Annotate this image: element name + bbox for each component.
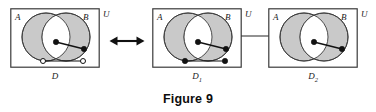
upper-edge-node-right <box>223 46 228 51</box>
upper-edge-node-right <box>339 46 344 51</box>
diagram-label-d2: D2 <box>268 72 358 83</box>
figure-9-root: A B U D A B <box>0 0 376 112</box>
lower-edge-node-right <box>222 58 227 63</box>
set-b-label: B <box>341 13 347 22</box>
upper-edge-node-left <box>195 39 200 44</box>
set-b-label: B <box>225 13 231 22</box>
diagram-label-d-text: D <box>52 71 59 81</box>
set-a-label: A <box>273 13 279 22</box>
upper-edge-node-right <box>81 46 86 51</box>
set-a-label: A <box>15 13 21 22</box>
figure-caption: Figure 9 <box>0 92 376 106</box>
upper-edge-node-left <box>53 39 58 44</box>
equivalence-arrow-icon <box>109 33 145 49</box>
lower-edge-node-left <box>182 58 187 63</box>
decomposition-link-line <box>241 33 269 39</box>
venn-panel-d1: A B <box>152 8 242 68</box>
universe-label-d1: U <box>245 10 252 19</box>
lower-edge-node-right <box>81 59 86 64</box>
diagram-label-d2-sub: 2 <box>315 76 318 83</box>
diagram-label-d1-sub: 1 <box>199 76 202 83</box>
diagram-label-d: D <box>10 72 100 81</box>
universe-label-d: U <box>103 10 110 19</box>
universe-label-d2: U <box>361 10 368 19</box>
set-a-label: A <box>157 13 163 22</box>
set-b-label: B <box>83 13 89 22</box>
diagram-label-d1: D1 <box>152 72 242 83</box>
upper-edge-node-left <box>311 39 316 44</box>
lower-edge-node-left <box>41 59 46 64</box>
venn-panel-d2: A B <box>268 8 358 68</box>
venn-panel-d: A B <box>10 8 100 68</box>
